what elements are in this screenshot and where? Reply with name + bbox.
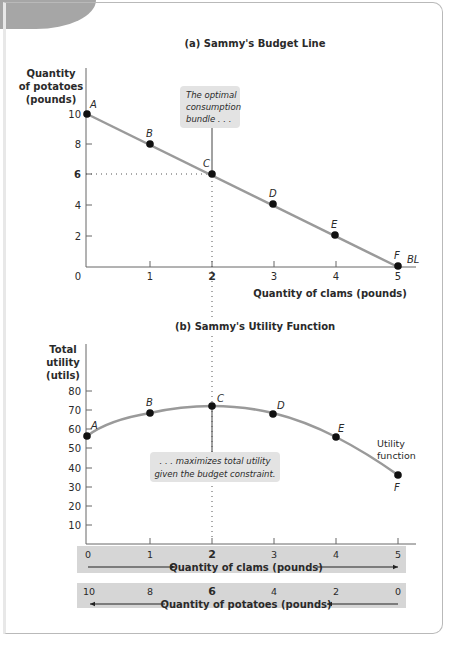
svg-text:8: 8 <box>147 586 153 597</box>
y-axis-label-line2: of potatoes <box>19 81 84 92</box>
svg-text:1: 1 <box>147 549 153 560</box>
panel-a-title: (a) Sammy's Budget Line <box>185 38 326 49</box>
budget-points: A B C D E F BL <box>83 99 419 270</box>
svg-text:4: 4 <box>333 549 339 560</box>
svg-text:10: 10 <box>83 586 95 597</box>
svg-text:A: A <box>90 420 98 431</box>
svg-text:2: 2 <box>208 548 216 561</box>
svg-text:B: B <box>146 128 153 139</box>
utility-y-label-line1: Total <box>49 344 76 355</box>
callout-b-line2: given the budget constraint. <box>154 469 275 479</box>
svg-text:3: 3 <box>271 549 277 560</box>
x-ticks: 0 1 2 3 4 5 <box>75 261 401 283</box>
x-tick-0: 0 <box>75 271 81 282</box>
y-tick-2: 2 <box>75 231 81 242</box>
potatoes-axis-band: 10 8 6 4 2 0 Quantity of potatoes (pound… <box>77 583 406 610</box>
point-D <box>269 410 277 418</box>
svg-text:4: 4 <box>271 586 277 597</box>
svg-text:50: 50 <box>68 443 81 454</box>
point-E <box>331 231 339 239</box>
svg-text:D: D <box>269 188 277 199</box>
callout-b-line1: . . . maximizes total utility <box>160 456 272 466</box>
svg-text:F: F <box>394 482 400 493</box>
x-tick-1: 1 <box>147 271 153 282</box>
point-A <box>83 432 91 440</box>
svg-text:E: E <box>331 219 338 230</box>
svg-text:F: F <box>394 250 400 261</box>
clams-band-label: Quantity of clams (pounds) <box>169 562 323 573</box>
svg-text:6: 6 <box>208 585 216 598</box>
point-A <box>83 110 91 118</box>
utility-y-label-line3: (utils) <box>46 370 80 381</box>
panel-b-utility-function: (b) Sammy's Utility Function Total utili… <box>46 320 416 610</box>
point-F <box>394 471 402 479</box>
svg-text:0: 0 <box>85 549 91 560</box>
utility-function-label-line2: function <box>377 450 416 461</box>
svg-text:C: C <box>217 393 224 404</box>
point-C <box>208 402 216 410</box>
point-B <box>146 140 154 148</box>
figure-canvas: (a) Sammy's Budget Line Quantity of pota… <box>0 0 462 656</box>
point-C <box>208 170 216 178</box>
point-D <box>269 200 277 208</box>
utility-function-label-line1: Utility <box>377 438 405 449</box>
svg-text:5: 5 <box>395 549 401 560</box>
point-F <box>394 262 402 270</box>
svg-text:70: 70 <box>68 405 81 416</box>
svg-text:E: E <box>338 423 345 434</box>
svg-text:2: 2 <box>333 586 339 597</box>
budget-line <box>87 114 398 267</box>
utility-y-label-line2: utility <box>46 357 80 368</box>
x-tick-5: 5 <box>395 271 401 282</box>
utility-y-ticks: 80 70 60 50 40 30 20 10 <box>68 386 92 531</box>
y-tick-10: 10 <box>68 109 81 120</box>
svg-text:10: 10 <box>68 520 81 531</box>
x-axis-label: Quantity of clams (pounds) <box>253 288 407 299</box>
utility-x-ticks <box>150 538 398 544</box>
y-tick-6: 6 <box>74 169 81 180</box>
svg-text:C: C <box>203 158 210 169</box>
y-axis-label-line3: (pounds) <box>26 94 77 105</box>
callout-a-line1: The optimal <box>186 90 237 100</box>
svg-text:B: B <box>146 397 153 408</box>
callout-a-line2: consumption <box>186 102 241 112</box>
svg-text:60: 60 <box>68 424 81 435</box>
y-tick-8: 8 <box>75 139 81 150</box>
svg-text:80: 80 <box>68 386 81 397</box>
y-axis-label-line1: Quantity <box>27 68 76 79</box>
x-tick-4: 4 <box>333 271 339 282</box>
panel-b-title: (b) Sammy's Utility Function <box>175 321 335 332</box>
y-ticks: 10 8 6 4 2 <box>68 109 92 242</box>
point-E <box>332 433 340 441</box>
potatoes-band-label: Quantity of potatoes (pounds) <box>160 599 331 610</box>
point-B <box>146 409 154 417</box>
svg-text:20: 20 <box>68 501 81 512</box>
svg-text:0: 0 <box>395 586 401 597</box>
svg-text:40: 40 <box>68 463 81 474</box>
callout-a-line3: bundle . . . <box>186 114 231 124</box>
x-tick-3: 3 <box>271 271 277 282</box>
budget-line-label: BL <box>407 254 419 265</box>
clams-axis-band: 0 1 2 3 4 5 Quantity of clams (pounds) <box>77 546 406 573</box>
y-tick-4: 4 <box>75 200 81 211</box>
svg-text:A: A <box>89 99 97 110</box>
svg-text:30: 30 <box>68 482 81 493</box>
svg-text:D: D <box>277 400 285 411</box>
